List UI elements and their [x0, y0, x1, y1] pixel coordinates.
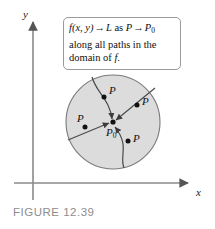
callout-line-2: along all paths in the — [69, 38, 175, 52]
figure-12-39: f(x, y)→L as P→P0 along all paths in the… — [0, 0, 215, 229]
label-point-lower-right: P — [133, 132, 140, 144]
y-axis-label: y — [23, 8, 28, 20]
label-point-upper-right: P — [142, 95, 149, 107]
label-point-top: P — [109, 84, 116, 96]
dot-point-upper-right — [135, 103, 140, 108]
arrow-right-icon-1: → — [93, 22, 106, 33]
callout-line-1: f(x, y)→L as P→P0 — [69, 21, 175, 38]
arrow-right-icon-2: → — [132, 22, 145, 33]
callout-as-word: as — [114, 22, 123, 33]
dot-point-top — [102, 95, 107, 100]
label-point-p0: P0 — [106, 126, 116, 140]
label-p0-base: P — [106, 126, 113, 138]
callout-box: f(x, y)→L as P→P0 along all paths in the… — [63, 17, 181, 70]
label-p0-subscript: 0 — [113, 131, 117, 140]
figure-caption: FIGURE 12.39 — [13, 206, 94, 218]
dot-point-left — [83, 125, 88, 130]
callout-line-3: domain of f. — [69, 51, 175, 65]
callout-function: f(x, y) — [69, 22, 93, 33]
dot-center-p0 — [110, 119, 115, 124]
dot-point-lower-right — [126, 139, 131, 144]
callout-limit: L — [106, 22, 112, 33]
callout-domain-f: f. — [115, 52, 121, 63]
callout-domain-text: domain of — [69, 52, 115, 63]
callout-point-p0-subscript: 0 — [151, 26, 155, 35]
x-axis-label: x — [196, 186, 201, 198]
label-point-left: P — [77, 112, 84, 124]
